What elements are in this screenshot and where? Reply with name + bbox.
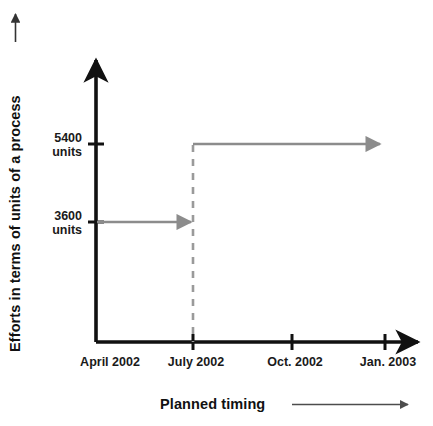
x-tick-label-oct-2002: Oct. 2002 xyxy=(267,355,323,369)
y-axis-title: Efforts in terms of units of a process xyxy=(7,95,23,352)
x-tick-label-july-2002: July 2002 xyxy=(168,355,224,369)
y-tick-label-3600-unit: units xyxy=(52,223,82,237)
y-tick-label-5400-unit: units xyxy=(52,145,82,159)
y-tick-label-5400-value: 5400 xyxy=(54,131,82,145)
y-tick-label-3600-value: 3600 xyxy=(54,209,82,223)
y-axis-label-group: Efforts in terms of units of a process xyxy=(7,14,23,352)
x-axis-title: Planned timing xyxy=(160,396,265,412)
x-tick-label-april-2002: April 2002 xyxy=(80,355,140,369)
y-axis-tick-labels: 5400 units 3600 units xyxy=(52,131,82,237)
chart-container: Efforts in terms of units of a process 5… xyxy=(0,0,433,426)
x-tick-label-jan-2003: Jan. 2003 xyxy=(360,355,416,369)
effort-vs-timing-step-chart: Efforts in terms of units of a process 5… xyxy=(0,0,433,426)
x-axis-tick-labels: April 2002 July 2002 Oct. 2002 Jan. 2003 xyxy=(80,355,416,369)
x-axis-label-group: Planned timing xyxy=(160,396,408,412)
